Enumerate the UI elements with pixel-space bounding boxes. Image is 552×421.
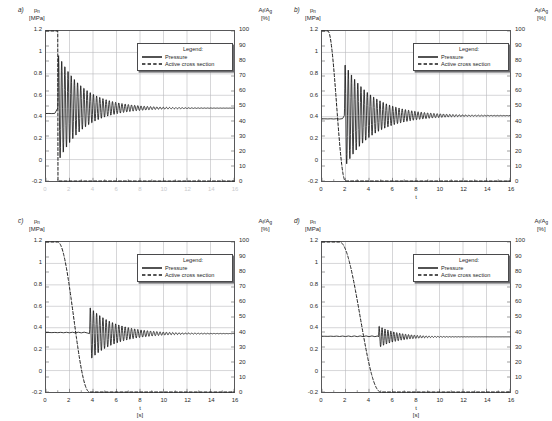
y-tick-left: -0.2 xyxy=(20,178,42,184)
y-tick-left: 0.6 xyxy=(296,303,318,309)
y-tick-right: 100 xyxy=(239,237,259,243)
x-tick: 8 xyxy=(132,186,148,192)
y-tick-right: 80 xyxy=(239,57,259,63)
y-tick-right: 40 xyxy=(515,329,535,335)
x-tick: 0 xyxy=(313,186,329,192)
legend-row-pressure: Pressure xyxy=(418,53,504,60)
y-axis-left-unit: [MPa] xyxy=(29,15,45,21)
legend-row-pressure: Pressure xyxy=(142,264,228,271)
y-tick-right: 10 xyxy=(515,374,535,380)
y-tick-left: 0.4 xyxy=(296,324,318,330)
y-tick-right: 0 xyxy=(515,178,535,184)
y-axis-left-symbol: pn xyxy=(310,7,316,13)
y-tick-left: 0 xyxy=(20,157,42,163)
y-tick-right: 90 xyxy=(515,42,535,48)
y-tick-right: 50 xyxy=(515,102,535,108)
y-tick-right: 60 xyxy=(515,87,535,93)
y-tick-right: 10 xyxy=(239,374,259,380)
y-tick-right: 0 xyxy=(515,389,535,395)
panel-b: b)pn[MPa]Af/Ag[%]1.210.80.60.40.20-0.210… xyxy=(276,0,552,211)
y-tick-left: 0.2 xyxy=(20,135,42,141)
y-tick-right: 100 xyxy=(239,26,259,32)
legend-dashed-line-swatch xyxy=(142,61,162,67)
legend-title: Legend: xyxy=(418,46,504,52)
y-tick-left: 0.4 xyxy=(20,324,42,330)
x-tick: 12 xyxy=(180,397,196,403)
x-tick: 14 xyxy=(203,186,219,192)
y-axis-right-unit: [%] xyxy=(537,15,546,21)
x-tick: 2 xyxy=(337,186,353,192)
y-tick-left: 0.4 xyxy=(296,113,318,119)
legend: Legend:PressureActive cross section xyxy=(137,254,233,282)
y-axis-right-symbol: Af/Ag xyxy=(258,7,272,13)
y-tick-left: 0.8 xyxy=(296,281,318,287)
x-tick: 16 xyxy=(503,397,519,403)
x-tick: 10 xyxy=(432,397,448,403)
panel-label: c) xyxy=(18,217,23,224)
legend-solid-line-swatch xyxy=(418,54,438,60)
y-tick-right: 60 xyxy=(515,298,535,304)
y-axis-left-symbol: pn xyxy=(34,218,40,224)
x-tick: 4 xyxy=(85,186,101,192)
y-tick-right: 70 xyxy=(239,72,259,78)
y-tick-right: 10 xyxy=(515,163,535,169)
y-tick-left: 1.2 xyxy=(296,237,318,243)
y-tick-right: 30 xyxy=(239,133,259,139)
y-axis-left-unit: [MPa] xyxy=(305,15,321,21)
x-axis-title: t[s] xyxy=(401,405,431,419)
y-tick-right: 50 xyxy=(239,313,259,319)
x-axis-title: t xyxy=(401,194,431,201)
y-tick-left: 1.2 xyxy=(296,26,318,32)
x-tick: 12 xyxy=(456,397,472,403)
x-tick: 4 xyxy=(361,397,377,403)
panel-a: a)pn[MPa]Af/Ag[%]1.210.80.60.40.20-0.210… xyxy=(0,0,276,211)
y-axis-right-symbol: Af/Ag xyxy=(258,218,272,224)
x-tick: 10 xyxy=(156,397,172,403)
x-axis-symbol: t xyxy=(415,194,417,200)
x-tick: 0 xyxy=(37,186,53,192)
figure-container: a)pn[MPa]Af/Ag[%]1.210.80.60.40.20-0.210… xyxy=(0,0,552,421)
panel-d: d)pn[MPa]Af/Ag[%]1.210.80.60.40.20-0.210… xyxy=(276,211,552,421)
y-axis-left-unit: [MPa] xyxy=(305,226,321,232)
y-tick-right: 90 xyxy=(239,42,259,48)
y-axis-left-symbol: pn xyxy=(310,218,316,224)
y-tick-right: 20 xyxy=(239,359,259,365)
x-tick: 16 xyxy=(227,397,243,403)
y-tick-right: 20 xyxy=(515,359,535,365)
y-tick-right: 60 xyxy=(239,298,259,304)
x-axis-title: t[s] xyxy=(125,405,155,419)
y-tick-right: 30 xyxy=(515,344,535,350)
y-axis-right-title: Af/Ag[%] xyxy=(258,218,272,233)
y-axis-left-symbol: pn xyxy=(34,7,40,13)
y-tick-right: 10 xyxy=(239,163,259,169)
y-tick-right: 30 xyxy=(239,344,259,350)
x-tick: 4 xyxy=(361,186,377,192)
x-tick: 16 xyxy=(227,186,243,192)
y-tick-left: 1 xyxy=(20,259,42,265)
x-tick: 6 xyxy=(384,397,400,403)
legend-label-pressure: Pressure xyxy=(165,54,187,60)
y-tick-right: 40 xyxy=(239,329,259,335)
y-tick-right: 20 xyxy=(239,148,259,154)
y-tick-left: 0.8 xyxy=(20,281,42,287)
y-tick-right: 80 xyxy=(515,268,535,274)
y-axis-right-title: Af/Ag[%] xyxy=(258,7,272,22)
y-axis-right-unit: [%] xyxy=(261,226,270,232)
legend-solid-line-swatch xyxy=(142,54,162,60)
legend-solid-line-swatch xyxy=(418,265,438,271)
panel-label: b) xyxy=(294,6,300,13)
legend-label-pressure: Pressure xyxy=(441,265,463,271)
y-tick-left: 1.2 xyxy=(20,237,42,243)
x-tick: 6 xyxy=(108,186,124,192)
x-axis-unit: [s] xyxy=(413,412,419,418)
y-tick-left: 0.6 xyxy=(20,303,42,309)
legend-label-pressure: Pressure xyxy=(441,54,463,60)
legend-label-active-cross-section: Active cross section xyxy=(165,61,214,67)
panel-label: d) xyxy=(294,217,300,224)
y-tick-left: 1 xyxy=(296,259,318,265)
legend: Legend:PressureActive cross section xyxy=(413,43,509,71)
y-axis-left-title: pn[MPa] xyxy=(29,7,45,22)
legend-dashed-line-swatch xyxy=(418,61,438,67)
panel-label: a) xyxy=(18,6,24,13)
legend-row-active-cross-section: Active cross section xyxy=(418,60,504,67)
